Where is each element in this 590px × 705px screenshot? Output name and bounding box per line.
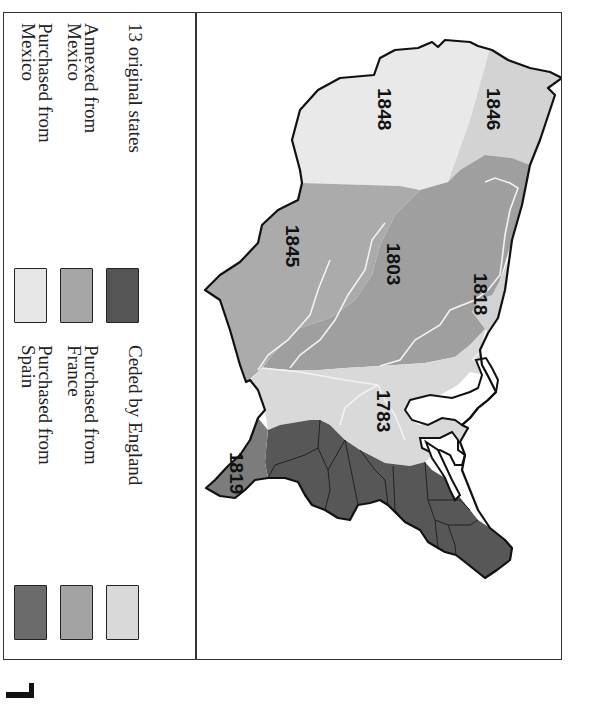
swatch-annexed-mexico — [60, 268, 93, 323]
legend-label-annexed-mexico: Annexed from Mexico — [66, 23, 100, 133]
swatch-purchased-spain — [14, 585, 47, 640]
legend: 13 original states Annexed from Mexico P… — [4, 13, 195, 659]
legend-label-purchased-france: Purchased from France — [66, 345, 100, 465]
swatch-purchased-france — [60, 585, 93, 640]
corner-crop-mark-vertical — [29, 683, 34, 698]
label-1783: 1783 — [373, 390, 394, 432]
label-1845: 1845 — [282, 225, 303, 268]
legend-label-original-states: 13 original states — [127, 23, 144, 153]
label-1818: 1818 — [470, 273, 491, 315]
legend-label-purchased-mexico: Purchased from Mexico — [20, 23, 54, 143]
label-1803: 1803 — [383, 243, 404, 285]
legend-label-ceded-england: Ceded by England — [127, 345, 144, 485]
label-1848: 1848 — [374, 88, 395, 130]
swatch-original-states — [106, 268, 139, 323]
label-1846: 1846 — [483, 88, 504, 130]
label-1819: 1819 — [226, 452, 247, 494]
legend-label-purchased-spain: Purchased from Spain — [20, 345, 54, 465]
swatch-ceded-england — [106, 585, 139, 640]
territorial-expansion-map: 1848 1846 1845 1803 1818 1783 1819 — [197, 13, 561, 659]
swatch-purchased-mexico — [14, 268, 47, 323]
